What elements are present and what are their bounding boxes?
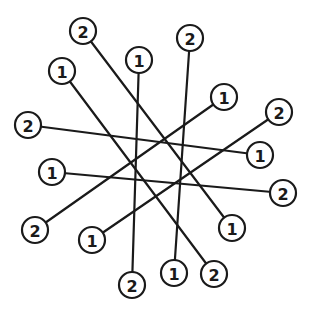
- node-label: 1: [226, 220, 237, 239]
- node-2: 2: [201, 261, 227, 287]
- node-label: 1: [168, 265, 179, 284]
- node-2: 2: [22, 217, 48, 243]
- node-label: 2: [126, 277, 137, 296]
- node-label: 2: [208, 266, 219, 285]
- node-1: 1: [49, 58, 75, 84]
- node-label: 2: [273, 104, 284, 123]
- node-1: 1: [161, 260, 187, 286]
- connector-line: [35, 97, 224, 230]
- node-label: 2: [29, 222, 40, 241]
- node-label: 1: [218, 89, 229, 108]
- node-label: 1: [133, 52, 144, 71]
- node-1: 1: [219, 215, 245, 241]
- node-label: 1: [86, 232, 97, 251]
- node-2: 2: [119, 272, 145, 298]
- node-1: 1: [79, 227, 105, 253]
- connector-line: [92, 112, 279, 240]
- node-layer: 2121212112211212: [15, 18, 296, 298]
- node-1: 1: [247, 142, 273, 168]
- node-2: 2: [270, 180, 296, 206]
- node-2: 2: [15, 112, 41, 138]
- node-2: 2: [266, 99, 292, 125]
- line-matching-diagram: 2121212112211212: [0, 0, 316, 318]
- node-label: 2: [22, 117, 33, 136]
- connector-line: [28, 125, 260, 155]
- node-2: 2: [70, 18, 96, 44]
- node-1: 1: [211, 84, 237, 110]
- node-label: 1: [56, 63, 67, 82]
- node-label: 1: [46, 164, 57, 183]
- node-label: 2: [184, 30, 195, 49]
- node-1: 1: [39, 159, 65, 185]
- node-label: 2: [77, 23, 88, 42]
- node-1: 1: [126, 47, 152, 73]
- node-2: 2: [177, 25, 203, 51]
- node-label: 1: [254, 147, 265, 166]
- node-label: 2: [277, 185, 288, 204]
- connector-line: [52, 172, 283, 193]
